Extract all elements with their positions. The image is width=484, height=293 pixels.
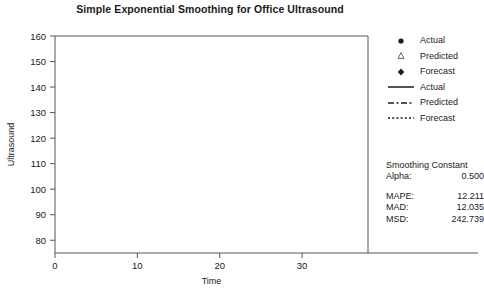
alpha-row: Alpha: 0.500 [386, 171, 484, 183]
chart-legend: Actual Predicted Forecast Actual Predict… [386, 33, 484, 126]
y-tick-label: 160 [30, 31, 46, 42]
mad-value: 12.035 [456, 202, 484, 214]
legend-label: Forecast [416, 67, 455, 76]
alpha-value: 0.500 [461, 171, 484, 183]
y-tick-label: 90 [35, 209, 46, 220]
legend-label: Predicted [416, 98, 458, 107]
y-tick-label: 110 [31, 158, 46, 169]
legend-label: Predicted [416, 52, 458, 61]
solid-line-icon [386, 81, 416, 93]
msd-value: 242.739 [451, 214, 484, 226]
stats-spacer [386, 183, 484, 191]
x-tick-label: 20 [214, 260, 225, 271]
y-tick-label: 130 [30, 107, 46, 118]
y-tick-label: 150 [30, 56, 46, 67]
dashed-line-icon [386, 97, 416, 109]
legend-label: Forecast [416, 114, 455, 123]
mad-label: MAD: [386, 202, 409, 214]
legend-label: Actual [416, 83, 445, 92]
legend-item-predicted-marker: Predicted [386, 49, 484, 65]
legend-label: Actual [416, 36, 445, 45]
y-tick-label: 140 [30, 82, 46, 93]
y-tick-label: 80 [35, 235, 46, 246]
mape-value: 12.211 [457, 191, 484, 203]
y-tick-label: 100 [30, 184, 46, 195]
filled-circle-marker-icon [386, 35, 416, 47]
x-tick-label: 0 [52, 260, 57, 271]
filled-diamond-marker-icon [386, 66, 416, 78]
mape-label: MAPE: [386, 191, 414, 203]
legend-item-actual-marker: Actual [386, 33, 484, 49]
msd-label: MSD: [386, 214, 409, 226]
legend-item-actual-line: Actual [386, 80, 484, 96]
x-tick-label: 10 [132, 260, 143, 271]
y-axis-title: Ultrasound [6, 123, 16, 167]
legend-item-forecast-marker: Forecast [386, 64, 484, 80]
plot-frame [55, 36, 368, 253]
mape-row: MAPE: 12.211 [386, 191, 484, 203]
alpha-label: Alpha: [386, 171, 412, 183]
x-axis-title: Time [202, 276, 222, 286]
smoothing-constant-title: Smoothing Constant [386, 160, 484, 170]
x-tick-label: 30 [297, 260, 308, 271]
mad-row: MAD: 12.035 [386, 202, 484, 214]
legend-item-forecast-line: Forecast [386, 111, 484, 127]
chart-container: Simple Exponential Smoothing for Office … [0, 0, 484, 293]
statistics-panel: Smoothing Constant Alpha: 0.500 MAPE: 12… [386, 160, 484, 225]
y-tick-label: 120 [30, 133, 46, 144]
legend-item-predicted-line: Predicted [386, 95, 484, 111]
open-triangle-marker-icon [386, 50, 416, 62]
dotted-line-icon [386, 112, 416, 124]
msd-row: MSD: 242.739 [386, 214, 484, 226]
